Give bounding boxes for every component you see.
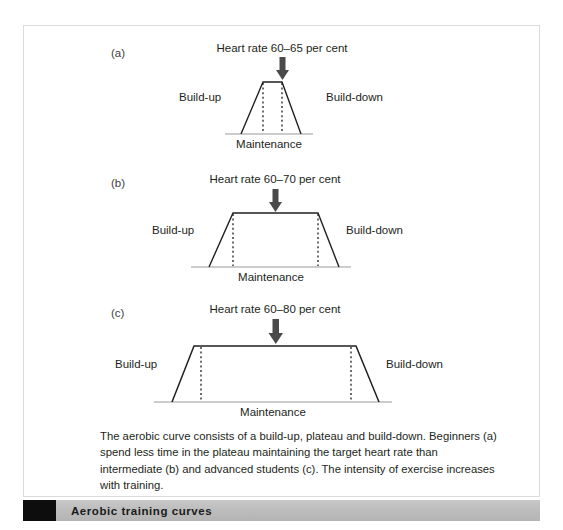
build-down-label-c: Build-down — [386, 359, 443, 371]
diagram-c: (c) Heart rate 60–80 per cent Build-up B… — [24, 26, 539, 496]
curve-c — [172, 346, 379, 402]
figure-panel: (a) Heart rate 60–65 per cent Build-up B… — [23, 25, 540, 497]
target-heart-rate-arrow-c — [269, 319, 284, 344]
panel-letter-c: (c) — [111, 308, 124, 320]
maintenance-label-c: Maintenance — [208, 407, 338, 419]
figure-caption: The aerobic curve consists of a build-up… — [100, 428, 500, 493]
figure-title: Aerobic training curves — [71, 505, 212, 517]
title-swatch — [23, 500, 56, 521]
build-up-label-c: Build-up — [115, 359, 157, 371]
heart-rate-label-c: Heart rate 60–80 per cent — [150, 304, 400, 316]
figure-title-bar: Aerobic training curves — [23, 500, 540, 521]
